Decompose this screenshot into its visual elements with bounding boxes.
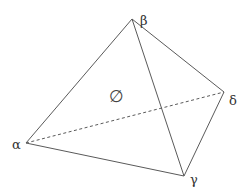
vertex-label-beta: β — [140, 13, 148, 28]
tetrahedron-diagram: α β γ δ ∅ — [0, 0, 252, 191]
vertex-label-gamma: γ — [190, 172, 198, 187]
edge-beta-delta — [132, 19, 224, 92]
edge-gamma-delta — [184, 92, 224, 176]
edge-alpha-gamma — [26, 143, 184, 176]
edge-alpha-beta — [26, 19, 132, 143]
edge-alpha-delta — [26, 92, 224, 143]
vertex-label-delta: δ — [229, 93, 237, 108]
face-label-empty-set: ∅ — [109, 86, 124, 106]
edge-beta-gamma — [132, 19, 184, 176]
vertex-label-alpha: α — [12, 137, 21, 152]
